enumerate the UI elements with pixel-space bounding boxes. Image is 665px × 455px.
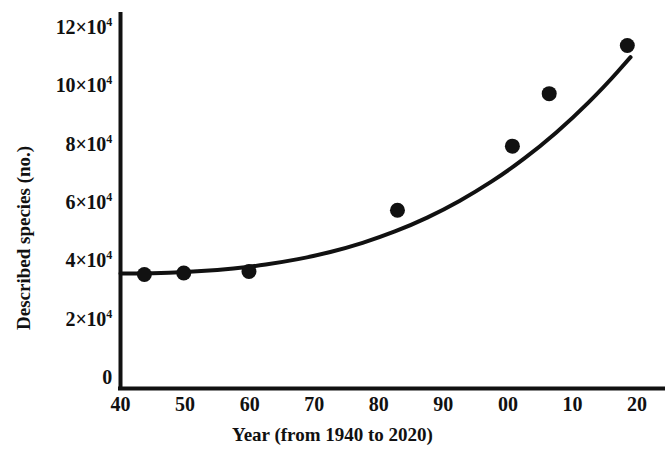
scatter-chart: 12×10410×1048×1046×1044×1042×1040 405060… [0, 0, 665, 455]
x-tick-label: 80 [369, 394, 389, 414]
x-tick-label: 20 [627, 394, 647, 414]
x-tick-label: 50 [175, 394, 195, 414]
x-tick-label: 70 [304, 394, 324, 414]
x-tick-label: 60 [240, 394, 260, 414]
x-axis-title: Year (from 1940 to 2020) [0, 424, 665, 446]
x-tick-labels: 405060708090001020 [0, 0, 665, 455]
x-tick-label: 40 [111, 394, 131, 414]
x-tick-label: 00 [498, 394, 518, 414]
x-tick-label: 90 [433, 394, 453, 414]
x-tick-label: 10 [562, 394, 582, 414]
y-axis-title: Described species (no.) [14, 146, 34, 330]
